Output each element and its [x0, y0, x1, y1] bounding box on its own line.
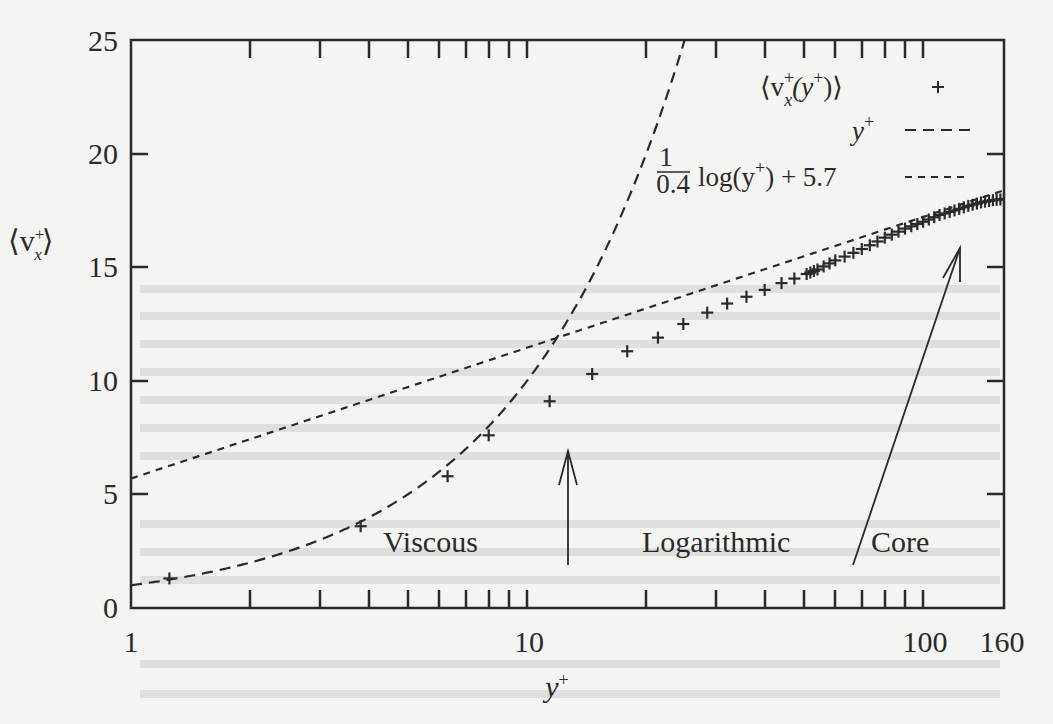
log-law-curve — [131, 190, 1004, 478]
core-arrow-icon — [853, 248, 960, 565]
background-page-texture — [140, 285, 1000, 698]
legend-entry-mean-velocity: ⟨v+x(y+)⟩ — [760, 68, 843, 110]
x-tick-10: 10 — [514, 625, 544, 658]
y-tick-0: 0 — [103, 591, 118, 624]
y-tick-15: 15 — [88, 250, 118, 283]
x-tick-labels: 1 10 100 160 — [124, 625, 1025, 658]
y-tick-20: 20 — [88, 137, 118, 170]
svg-text:log(y+) + 5.7: log(y+) + 5.7 — [698, 158, 837, 192]
y-axis-ticks — [131, 154, 1004, 494]
y-tick-5: 5 — [103, 477, 118, 510]
linear-sublayer-curve — [131, 17, 691, 585]
x-tick-160: 160 — [980, 625, 1025, 658]
legend-plus-marker-icon — [932, 81, 944, 93]
svg-text:1: 1 — [659, 142, 673, 172]
svg-text:0.4: 0.4 — [656, 169, 690, 199]
annotation-core: Core — [871, 525, 929, 558]
x-tick-1: 1 — [124, 625, 139, 658]
y-tick-10: 10 — [88, 364, 118, 397]
y-axis-label: ⟨v+x⟩ — [8, 224, 54, 264]
legend-entry-log-law: 1 0.4 log(y+) + 5.7 — [656, 142, 837, 199]
viscous-arrow-icon — [559, 451, 577, 565]
legend-entry-linear: y+ — [849, 112, 874, 146]
legend: ⟨v+x(y+)⟩ y+ 1 0.4 log(y+) + 5.7 — [656, 68, 975, 199]
velocity-profile-chart: 0 5 10 15 20 25 1 10 100 160 y+ ⟨v+x⟩ ⟨v… — [0, 0, 1053, 724]
y-tick-25: 25 — [88, 24, 118, 57]
x-tick-100: 100 — [903, 625, 948, 658]
annotation-logarithmic: Logarithmic — [642, 525, 790, 558]
y-tick-labels: 0 5 10 15 20 25 — [88, 24, 118, 624]
x-axis-label: y+ — [542, 670, 568, 703]
annotation-viscous: Viscous — [383, 525, 478, 558]
